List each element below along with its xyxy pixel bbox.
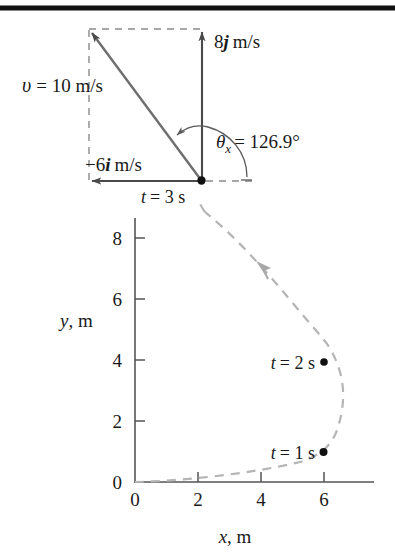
- y-tick-label-6: 6: [113, 289, 123, 310]
- x-axis-label: x, m: [218, 526, 252, 547]
- data-point-label-t2: t= 2 s: [271, 353, 315, 373]
- y-tick-label-0: 0: [113, 472, 123, 493]
- y-tick-label-8: 8: [113, 228, 123, 249]
- figure-root: υ= 10 m/s 8jm/s −6im/s θx= 126.9° t= 3 s: [0, 0, 395, 556]
- trajectory-curve: [135, 212, 343, 482]
- x-tick-label-6: 6: [319, 489, 329, 510]
- resultant-velocity-label: υ= 10 m/s: [22, 74, 103, 96]
- y-axis-label: y, m: [58, 310, 93, 331]
- angle-label: θx= 126.9°: [216, 131, 300, 156]
- data-point-t2: [320, 358, 328, 366]
- y-axis-ticks: [135, 238, 145, 421]
- trajectory-plot: 8 6 4 2 0 0 2 4 6 y, m x, m: [58, 199, 374, 547]
- data-point-t1: [320, 448, 328, 456]
- physics-figure-svg: υ= 10 m/s 8jm/s −6im/s θx= 126.9° t= 3 s: [0, 0, 395, 556]
- x-tick-label-2: 2: [193, 489, 203, 510]
- horizontal-component-label: −6im/s: [85, 154, 142, 175]
- x-tick-label-0: 0: [130, 489, 140, 510]
- data-point-label-t1: t= 1 s: [271, 443, 315, 463]
- vector-origin-dot: [197, 176, 205, 184]
- vertical-component-label: 8jm/s: [214, 31, 260, 52]
- x-tick-label-4: 4: [256, 489, 266, 510]
- trajectory-curve-upper-tail: [198, 199, 205, 212]
- y-tick-label-2: 2: [113, 411, 123, 432]
- vector-origin-time-label: t= 3 s: [141, 187, 185, 207]
- vector-diagram: υ= 10 m/s 8jm/s −6im/s θx= 126.9° t= 3 s: [22, 29, 300, 207]
- y-tick-label-4: 4: [113, 350, 123, 371]
